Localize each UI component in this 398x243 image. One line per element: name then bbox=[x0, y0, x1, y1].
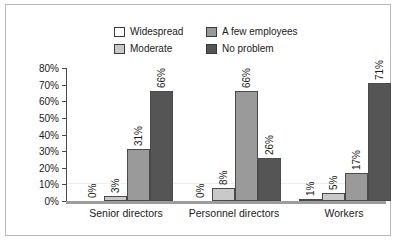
legend-label-a-few-employees: A few employees bbox=[222, 27, 298, 37]
y-axis-tick-label: 70% bbox=[39, 79, 59, 90]
legend-label-moderate: Moderate bbox=[130, 44, 172, 54]
legend-swatch-a-few-employees bbox=[206, 27, 217, 37]
bar-slot: 3% bbox=[104, 68, 127, 201]
y-axis-tick-label: 10% bbox=[39, 179, 59, 190]
legend-item-moderate: Moderate bbox=[114, 44, 206, 54]
y-axis-tick-label: 20% bbox=[39, 162, 59, 173]
legend-label-widespread: Widespread bbox=[130, 27, 183, 37]
bar[interactable] bbox=[368, 83, 391, 201]
y-axis-tick: 40% bbox=[6, 135, 66, 136]
bar-slot: 0% bbox=[189, 68, 212, 201]
legend-item-a-few-employees: A few employees bbox=[206, 27, 329, 37]
bar-group: 1%5%17%71% bbox=[299, 68, 391, 201]
y-axis-tick-label: 0% bbox=[45, 196, 59, 207]
y-axis-tick: 20% bbox=[6, 168, 66, 169]
chart-frame: Widespread A few employees Moderate No p… bbox=[5, 4, 391, 236]
bar-slot: 5% bbox=[322, 68, 345, 201]
bar-slot: 31% bbox=[127, 68, 150, 201]
y-axis-tick-label: 80% bbox=[39, 63, 59, 74]
bar[interactable] bbox=[258, 158, 281, 201]
bar[interactable] bbox=[150, 91, 173, 201]
y-axis-tick: 10% bbox=[6, 184, 66, 185]
y-axis: 0%10%20%30%40%50%60%70%80% bbox=[6, 68, 66, 202]
bar[interactable] bbox=[345, 173, 368, 201]
y-axis-tick: 70% bbox=[6, 85, 66, 86]
legend-swatch-moderate bbox=[114, 44, 125, 54]
y-axis-tick: 30% bbox=[6, 151, 66, 152]
y-axis-tick: 0% bbox=[6, 201, 66, 202]
bar[interactable] bbox=[235, 91, 258, 201]
bar-group: 0%3%31%66% bbox=[81, 68, 173, 201]
y-axis-tick-label: 30% bbox=[39, 146, 59, 157]
bar-slot: 17% bbox=[345, 68, 368, 201]
legend-swatch-widespread bbox=[114, 27, 125, 37]
y-axis-tick-label: 60% bbox=[39, 96, 59, 107]
legend-swatch-no-problem bbox=[206, 44, 217, 54]
axis-baseline bbox=[66, 201, 386, 204]
bar-slot: 26% bbox=[258, 68, 281, 201]
bar[interactable] bbox=[212, 188, 235, 201]
bar-slot: 66% bbox=[235, 68, 258, 201]
bar-slot: 8% bbox=[212, 68, 235, 201]
chart-legend: Widespread A few employees Moderate No p… bbox=[114, 23, 329, 57]
bar[interactable] bbox=[127, 149, 150, 201]
legend-label-no-problem: No problem bbox=[222, 44, 274, 54]
y-axis-tick: 50% bbox=[6, 118, 66, 119]
bar[interactable] bbox=[322, 193, 345, 201]
bar-slot: 0% bbox=[81, 68, 104, 201]
x-axis-category-label: Workers bbox=[284, 207, 398, 219]
legend-item-no-problem: No problem bbox=[206, 44, 329, 54]
bar-group: 0%8%66%26% bbox=[189, 68, 281, 201]
x-axis-category-label: Senior directors bbox=[66, 207, 186, 219]
y-axis-tick: 80% bbox=[6, 68, 66, 69]
bar-slot: 1% bbox=[299, 68, 322, 201]
y-axis-tick: 60% bbox=[6, 101, 66, 102]
legend-item-widespread: Widespread bbox=[114, 27, 206, 37]
plot-area: 0%3%31%66%0%8%66%26%1%5%17%71% bbox=[66, 68, 385, 202]
y-axis-tick-label: 50% bbox=[39, 112, 59, 123]
bar-slot: 71% bbox=[368, 68, 391, 201]
y-axis-tick-label: 40% bbox=[39, 129, 59, 140]
x-axis-category-label: Personnel directors bbox=[174, 207, 294, 219]
bar-slot: 66% bbox=[150, 68, 173, 201]
